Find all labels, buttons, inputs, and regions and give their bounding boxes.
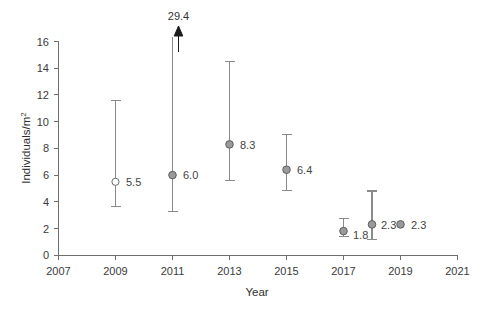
y-tick-label-4: 4 [43,196,49,208]
marker-filled-circle-2019[interactable] [397,221,405,229]
marker-filled-circle-2015[interactable] [283,166,291,174]
point-value-label-2009: 5.5 [126,176,141,188]
data-point-2019[interactable]: 2.3 [397,219,427,231]
point-value-label-2018: 2.3 [381,219,396,231]
x-tick-label-2011: 2011 [161,265,185,277]
data-point-2017[interactable]: 1.8 [339,218,369,240]
off-scale-value-label: 29.4 [168,10,189,22]
data-point-2015[interactable]: 6.4 [282,135,313,190]
y-tick-label-12: 12 [37,89,49,101]
marker-filled-circle-2013[interactable] [226,141,234,149]
y-tick-labels: 16 14 12 10 8 6 4 2 0 [37,36,49,262]
point-value-label-2019: 2.3 [411,219,426,231]
x-tick-label-2013: 2013 [217,265,241,277]
x-tick-label-2015: 2015 [274,265,298,277]
x-tick-labels: 2007 2009 2011 2013 2015 2017 2019 2021 [46,265,469,277]
marker-filled-circle-2017[interactable] [340,227,348,235]
point-value-label-2017: 1.8 [353,229,368,241]
x-tick-label-2007: 2007 [46,265,70,277]
x-axis-title: Year [245,286,268,298]
y-tick-label-6: 6 [43,169,49,181]
y-axis-title: Individuals/m2 [19,112,32,184]
y-tick-label-16: 16 [37,36,49,48]
x-tick-label-2021: 2021 [445,265,469,277]
point-value-label-2015: 6.4 [297,164,312,176]
y-tick-label-14: 14 [37,62,49,74]
y-tick-label-0: 0 [43,249,49,261]
point-value-label-2011: 6.0 [183,169,198,181]
y-axis-title-sup: 2 [19,112,28,117]
off-scale-arrow-icon [174,26,183,52]
marker-filled-circle-2011[interactable] [169,171,177,179]
y-axis-title-main: Individuals/m [20,117,32,184]
data-point-2011[interactable]: 6.0 29.4 [168,10,199,211]
point-value-label-2013: 8.3 [240,139,255,151]
x-tick-label-2009: 2009 [103,265,127,277]
data-point-2009[interactable]: 5.5 [111,100,142,206]
y-tick-label-2: 2 [43,223,49,235]
y-tick-label-10: 10 [37,116,49,128]
x-tick-label-2017: 2017 [331,265,355,277]
chart-figure: 16 14 12 10 8 6 4 2 0 2007 2009 2011 201… [0,0,483,310]
chart-svg: 16 14 12 10 8 6 4 2 0 2007 2009 2011 201… [0,0,483,310]
data-point-2018[interactable]: 2.3 [367,191,396,240]
y-tick-label-8: 8 [43,142,49,154]
y-tick-marks [54,42,58,256]
x-tick-label-2019: 2019 [388,265,412,277]
data-point-2013[interactable]: 8.3 [225,62,256,181]
marker-filled-circle-2018[interactable] [368,221,376,229]
arrow-head [174,26,183,36]
marker-open-circle-2009[interactable] [112,178,119,185]
